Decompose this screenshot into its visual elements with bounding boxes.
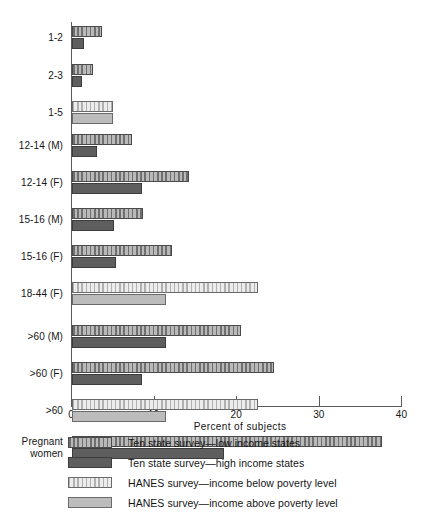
category-label: 12-14 (F) <box>0 177 63 189</box>
x-axis-title: Percent of subjects <box>0 421 428 432</box>
category-label: 12-14 (M) <box>0 140 63 152</box>
category-label-line: 12-14 (F) <box>0 177 63 189</box>
bar-ten_high <box>72 257 116 268</box>
category-label: 1-2 <box>0 32 63 44</box>
bar-group: 18-44 (F) <box>0 282 428 306</box>
category-label: 15-16 (M) <box>0 214 63 226</box>
bar-hanes_below <box>72 101 113 112</box>
bar-hanes_below <box>72 282 258 293</box>
bar-hanes_above <box>72 113 113 124</box>
category-label: 1-5 <box>0 107 63 119</box>
bar-group: >60 (F) <box>0 362 428 386</box>
category-label: >60 (M) <box>0 331 63 343</box>
category-label: 2-3 <box>0 70 63 82</box>
category-label-line: women <box>0 448 63 460</box>
legend-swatch-hanes_below <box>68 477 112 488</box>
category-label-line: 15-16 (F) <box>0 251 63 263</box>
category-label: 15-16 (F) <box>0 251 63 263</box>
category-label-line: >60 (M) <box>0 331 63 343</box>
legend-swatch-hanes_above <box>68 497 112 508</box>
bar-group: >60 <box>0 399 428 423</box>
category-label-line: 15-16 (M) <box>0 214 63 226</box>
category-label: >60 <box>0 405 63 417</box>
legend-swatch-ten_low <box>68 437 112 448</box>
bar-group: 2-3 <box>0 64 428 88</box>
legend-swatch-ten_high <box>68 457 112 468</box>
bar-ten_high <box>72 220 114 231</box>
category-label-line: 1-2 <box>0 32 63 44</box>
plot-area: 010203040 1-22-31-512-14 (M)12-14 (F)15-… <box>0 0 428 410</box>
bar-ten_high <box>72 76 82 87</box>
bar-ten_high <box>72 38 84 49</box>
category-label-line: 1-5 <box>0 107 63 119</box>
bar-ten_low <box>72 134 132 145</box>
category-label-line: 2-3 <box>0 70 63 82</box>
bar-ten_high <box>72 337 166 348</box>
category-label-line: Pregnant <box>0 436 63 448</box>
bar-group: 1-5 <box>0 101 428 125</box>
bar-group: 12-14 (F) <box>0 171 428 195</box>
bar-ten_low <box>72 325 241 336</box>
legend-item: HANES survey—income above poverty level <box>68 496 338 509</box>
bar-ten_low <box>72 208 143 219</box>
bar-group: >60 (M) <box>0 325 428 349</box>
bar-ten_high <box>72 146 97 157</box>
bar-hanes_above <box>72 294 166 305</box>
legend-label: HANES survey—income below poverty level <box>128 477 337 489</box>
category-label-line: 12-14 (M) <box>0 140 63 152</box>
category-label-line: 18-44 (F) <box>0 288 63 300</box>
category-label-line: >60 (F) <box>0 368 63 380</box>
bar-hanes_below <box>72 399 258 410</box>
bar-group: 15-16 (F) <box>0 245 428 269</box>
bar-chart: 010203040 1-22-31-512-14 (M)12-14 (F)15-… <box>0 0 428 522</box>
bar-group: 12-14 (M) <box>0 134 428 158</box>
legend-item: HANES survey—income below poverty level <box>68 476 337 489</box>
bar-ten_low <box>72 245 172 256</box>
legend-item: Ten state survey—low income states <box>68 436 300 449</box>
legend-label: Ten state survey—low income states <box>128 437 300 449</box>
bar-group: 1-2 <box>0 26 428 50</box>
category-label: 18-44 (F) <box>0 288 63 300</box>
bar-group: 15-16 (M) <box>0 208 428 232</box>
legend-item: Ten state survey—high income states <box>68 456 304 469</box>
bar-ten_low <box>72 26 102 37</box>
category-label: Pregnantwomen <box>0 436 63 459</box>
bar-ten_high <box>72 374 142 385</box>
legend-label: Ten state survey—high income states <box>128 457 304 469</box>
legend-label: HANES survey—income above poverty level <box>128 497 338 509</box>
bar-ten_low <box>72 362 274 373</box>
bar-ten_low <box>72 171 189 182</box>
category-label: >60 (F) <box>0 368 63 380</box>
category-label-line: >60 <box>0 405 63 417</box>
x-axis-title-text: Percent of subjects <box>142 421 287 432</box>
bar-ten_low <box>72 64 93 75</box>
bar-ten_high <box>72 183 142 194</box>
